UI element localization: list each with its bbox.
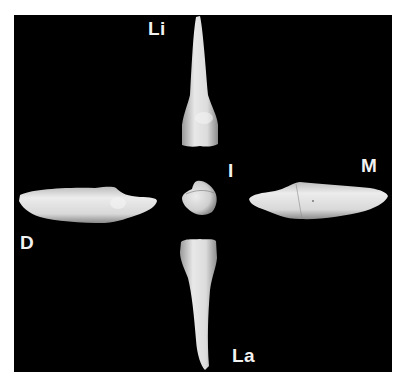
tooth-lingual-view — [182, 16, 218, 147]
teeth-illustration — [0, 0, 405, 383]
label-distal: D — [20, 233, 34, 252]
label-lingual: Li — [148, 19, 166, 38]
tooth-labial-view — [180, 239, 217, 370]
label-labial: La — [232, 346, 255, 365]
tooth-incisal-view — [182, 181, 217, 215]
label-mesial: M — [361, 156, 377, 175]
tooth-mesial-view — [249, 182, 388, 219]
tooth-distal-view — [19, 187, 157, 223]
label-incisal: I — [228, 161, 234, 180]
